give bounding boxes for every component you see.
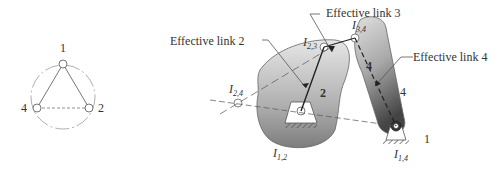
ground-label: 1 (424, 132, 430, 146)
edge-1-4 (37, 64, 63, 108)
link-4-lower-label: 4 (400, 85, 406, 99)
pivot-i24 (234, 99, 242, 107)
callout-effective-link-4: Effective link 4 (413, 50, 487, 64)
link-2-label: 2 (320, 86, 326, 100)
kinematic-diagram: 1 2 4 (0, 0, 501, 172)
callout-effective-link-3: Effective link 3 (326, 6, 400, 20)
mechanism: Effective link 2 Effective link 3 Effect… (170, 6, 487, 163)
link-4-upper-label: 4 (366, 59, 372, 73)
node-4 (33, 104, 41, 112)
label-i24: I2,4 (228, 82, 243, 98)
ground-hatch-2 (285, 123, 317, 128)
callout-effective-link-2: Effective link 2 (170, 34, 244, 48)
node-4-label: 4 (21, 101, 27, 115)
label-i23: I2,3 (302, 35, 317, 51)
node-2 (85, 104, 93, 112)
edge-1-2 (63, 64, 89, 108)
ground-hatch-4 (383, 140, 409, 144)
node-1-label: 1 (60, 41, 66, 55)
node-1 (59, 60, 67, 68)
linear-graph: 1 2 4 (21, 41, 104, 129)
link-2 (257, 40, 350, 148)
link-4 (355, 17, 405, 135)
node-2-label: 2 (98, 101, 104, 115)
graph-circle (31, 65, 95, 129)
label-i14: I1,4 (393, 147, 408, 163)
label-i12: I1,2 (272, 146, 287, 162)
